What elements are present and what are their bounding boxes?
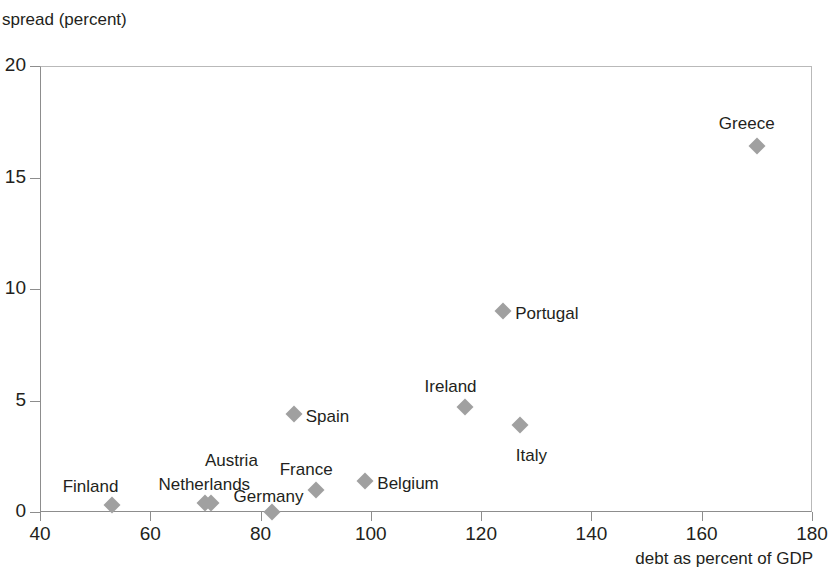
data-point-label: Italy [516,446,547,466]
data-point-label: Ireland [425,377,477,397]
y-tick-label: 0 [0,500,26,522]
x-tick-label: 140 [561,523,621,545]
x-tick-label: 100 [341,523,401,545]
x-tick [371,512,372,521]
x-tick [702,512,703,521]
data-point-label: Austria [205,451,258,471]
x-tick-label: 60 [120,523,180,545]
x-tick [812,512,813,521]
y-tick [30,66,40,67]
x-tick [261,512,262,521]
y-tick [30,401,40,402]
x-tick [591,512,592,521]
data-point-label: France [280,460,333,480]
x-tick-label: 160 [672,523,732,545]
x-tick-label: 120 [451,523,511,545]
y-tick-label: 20 [0,54,26,76]
x-tick-label: 40 [10,523,70,545]
y-tick-label: 10 [0,277,26,299]
y-tick [30,512,40,513]
x-tick-label: 80 [231,523,291,545]
data-point-label: Finland [63,477,119,497]
x-tick [481,512,482,521]
x-axis-title: debt as percent of GDP [635,549,813,569]
y-tick-label: 15 [0,166,26,188]
data-point-label: Belgium [377,474,438,494]
x-tick [40,512,41,521]
data-point-label: Germany [234,487,304,507]
y-tick [30,289,40,290]
data-point-label: Greece [719,114,775,134]
y-tick-label: 5 [0,389,26,411]
plot-area [40,66,812,512]
data-point-label: Portugal [515,304,578,324]
x-tick-label: 180 [782,523,832,545]
data-point-label: Spain [306,407,349,427]
x-tick [150,512,151,521]
y-tick [30,178,40,179]
y-axis-title: spread (percent) [2,10,127,30]
